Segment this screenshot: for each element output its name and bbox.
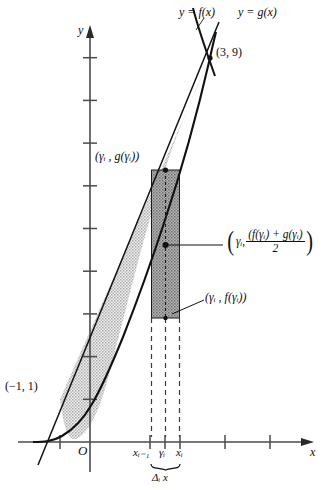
delta-x-label: Δᵢ x [152,472,168,483]
midpoint-fraction: (f(γᵢ) + g(γᵢ) 2 [246,228,304,255]
x-axis-label: x [310,446,315,458]
point-rect-top-dot [163,167,168,172]
figure-canvas: y x O y = f(x) y = g(x) (3, 9) (−1, 1) (… [0,0,331,490]
line-curve [38,22,219,465]
point-label-neg1-1: (−1, 1) [5,380,38,392]
x-tick-label-mid: γᵢ [159,447,165,458]
delta-x-brace [151,464,180,470]
rect-bottom-label: (γᵢ , f(γᵢ)) [205,291,247,303]
region-between-curves [60,58,210,439]
point-label-3-9: (3, 9) [216,46,242,58]
y-axis-arrow [86,25,94,38]
parabola-curve-main [33,32,216,442]
point-rect-bottom-dot [163,316,167,320]
x-tick-label-left: xᵢ₋₁ [133,447,149,458]
x-tick-label-right: xᵢ [176,447,183,458]
midpoint-fraction-numerator: (f(γᵢ) + g(γᵢ) [246,228,304,242]
midpoint-close-paren: ) [306,231,313,253]
origin-label: O [78,444,87,457]
rect-midpoint-label: ( γᵢ, (f(γᵢ) + g(γᵢ) 2 ) [226,228,314,255]
projection-dashed-lines [152,318,180,437]
curve-label-f: y = f(x) [179,6,215,18]
midpoint-open-paren: ( [227,231,234,253]
midpoint-fraction-denominator: 2 [246,242,304,255]
midpoint-x-part: γᵢ, [235,236,246,248]
y-axis-label: y [78,24,83,36]
curve-label-g: y = g(x) [238,6,277,18]
rect-top-label: (γᵢ , g(γᵢ)) [95,150,139,162]
point-upper-intersection-dot [207,55,212,60]
